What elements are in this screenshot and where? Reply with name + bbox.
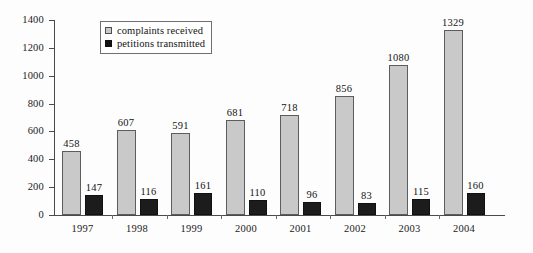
- legend-item-petitions-transmitted: petitions transmitted: [105, 37, 205, 50]
- x-axis-tick-label: 2002: [327, 223, 384, 235]
- legend-label-complaints-received: complaints received: [117, 25, 203, 37]
- x-axis-tick: [385, 215, 386, 219]
- bar-complaints-received: [171, 133, 190, 215]
- bar-value-label: 718: [272, 102, 307, 113]
- bar-value-label: 96: [295, 189, 329, 200]
- x-axis-tick-label: 2000: [218, 223, 275, 235]
- bar-value-label: 591: [163, 120, 198, 131]
- x-axis-tick: [167, 215, 168, 219]
- bar-complaints-received: [117, 130, 136, 215]
- bar-petitions-transmitted: [194, 193, 212, 215]
- bar-value-label: 161: [186, 180, 220, 191]
- bar-value-label: 110: [241, 187, 275, 198]
- y-axis-tick: [49, 187, 55, 188]
- y-axis-tick-label: 1400: [0, 15, 44, 25]
- dark-square-swatch-icon: [105, 40, 112, 47]
- bar-value-label: 83: [350, 190, 384, 201]
- bar-value-label: 116: [132, 186, 166, 197]
- y-axis-tick-label: 0: [0, 210, 44, 220]
- x-axis-tick-label: 2003: [381, 223, 438, 235]
- x-axis-tick-label: 1999: [163, 223, 220, 235]
- y-axis-tick-label: 800: [0, 99, 44, 109]
- legend-label-petitions-transmitted: petitions transmitted: [117, 38, 205, 50]
- x-axis-tick: [330, 215, 331, 219]
- bar-value-label: 458: [54, 138, 89, 149]
- x-axis-tick-label: 1997: [54, 223, 111, 235]
- legend: complaints received petitions transmitte…: [100, 21, 212, 54]
- bar-value-label: 856: [327, 83, 362, 94]
- bar-complaints-received: [226, 120, 245, 215]
- bar-value-label: 115: [404, 186, 438, 197]
- y-axis-tick-label: 600: [0, 126, 44, 136]
- bar-chart: 0200400600800100012001400 19971998199920…: [0, 0, 533, 253]
- y-axis-tick-label: 400: [0, 154, 44, 164]
- plot-area: 0200400600800100012001400 19971998199920…: [0, 0, 533, 253]
- y-axis-tick-label: 1000: [0, 71, 44, 81]
- bar-petitions-transmitted: [303, 202, 321, 215]
- x-axis-line: [54, 215, 505, 216]
- x-axis-tick: [112, 215, 113, 219]
- legend-item-complaints-received: complaints received: [105, 24, 205, 37]
- bar-petitions-transmitted: [140, 199, 158, 215]
- y-axis-tick: [49, 159, 55, 160]
- bar-petitions-transmitted: [85, 195, 103, 215]
- bar-petitions-transmitted: [467, 193, 485, 215]
- y-axis-tick-label: 1200: [0, 43, 44, 53]
- bar-complaints-received: [280, 115, 299, 215]
- bar-petitions-transmitted: [249, 200, 267, 215]
- bar-value-label: 681: [218, 107, 253, 118]
- bar-petitions-transmitted: [358, 203, 376, 215]
- y-axis-tick: [49, 215, 55, 216]
- y-axis-tick: [49, 48, 55, 49]
- y-axis-tick: [49, 76, 55, 77]
- y-axis-tick: [49, 131, 55, 132]
- y-axis-tick-label: 200: [0, 182, 44, 192]
- bar-petitions-transmitted: [412, 199, 430, 215]
- bar-value-label: 160: [459, 180, 493, 191]
- bar-value-label: 147: [77, 182, 111, 193]
- x-axis-tick: [439, 215, 440, 219]
- y-axis-tick: [49, 104, 55, 105]
- light-square-swatch-icon: [105, 27, 112, 34]
- x-axis-tick: [276, 215, 277, 219]
- x-axis-tick-label: 2001: [272, 223, 329, 235]
- bar-value-label: 1080: [381, 52, 416, 63]
- x-axis-tick-label: 1998: [109, 223, 166, 235]
- bar-value-label: 1329: [436, 17, 471, 28]
- x-axis-tick: [221, 215, 222, 219]
- y-axis-tick: [49, 20, 55, 21]
- x-axis-tick-label: 2004: [436, 223, 493, 235]
- bar-value-label: 607: [109, 117, 144, 128]
